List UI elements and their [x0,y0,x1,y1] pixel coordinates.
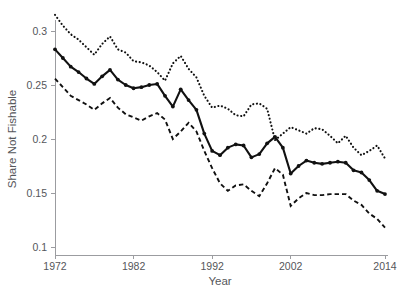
data-point-marker [242,144,246,148]
x-axis-title: Year [208,275,231,287]
data-point-marker [124,83,128,87]
data-point-marker [352,168,356,172]
data-point-marker [375,189,379,193]
y-axis-title: Share Not Fishable [6,90,18,188]
data-point-marker [171,105,175,109]
x-tick-label: 2014 [373,260,397,272]
data-point-marker [202,132,206,136]
data-point-marker [61,56,65,60]
data-point-marker [163,94,167,98]
point-estimate-markers [53,47,387,196]
point-estimate-line [55,49,385,194]
x-tick-label: 1992 [200,260,224,272]
data-point-marker [305,159,309,163]
lower-confidence-bound-line [55,79,385,228]
data-point-marker [257,152,261,156]
data-point-marker [195,108,199,112]
x-tick-label: 2002 [279,260,303,272]
x-axis-tick-group: 19721982199220022014 [43,255,397,272]
upper-confidence-bound-line [55,15,385,159]
data-point-marker [281,146,285,150]
x-tick-label: 1982 [122,260,146,272]
data-point-marker [360,171,364,175]
y-tick-label: 0.2 [32,133,47,145]
y-tick-label: 0.1 [32,241,47,253]
data-point-marker [69,65,73,69]
data-point-marker [77,70,81,74]
data-point-marker [336,160,340,164]
data-point-marker [273,135,277,139]
data-point-marker [210,149,214,153]
data-point-marker [179,87,183,91]
data-point-marker [312,161,316,165]
y-axis-tick-group: 0.10.150.20.250.3 [27,25,55,253]
data-point-marker [289,172,293,176]
data-point-marker [250,155,254,159]
data-point-marker [320,162,324,166]
data-point-marker [116,78,120,82]
data-point-marker [297,164,301,168]
data-point-marker [92,82,96,86]
data-point-marker [367,178,371,182]
data-point-marker [226,146,230,150]
data-point-marker [132,86,136,90]
y-tick-label: 0.15 [27,187,48,199]
share-not-fishable-line-chart: 0.10.150.20.250.3 19721982199220022014 Y… [0,0,405,294]
y-tick-label: 0.3 [32,25,47,37]
data-point-marker [53,47,57,51]
data-point-marker [383,192,387,196]
y-tick-label: 0.25 [27,79,48,91]
chart-figure: 0.10.150.20.250.3 19721982199220022014 Y… [0,0,405,294]
data-point-marker [155,82,159,86]
data-point-marker [85,77,89,81]
data-point-marker [147,83,151,87]
data-point-marker [234,143,238,147]
data-point-marker [344,161,348,165]
data-point-marker [218,153,222,157]
data-point-marker [328,161,332,165]
data-point-marker [100,74,104,78]
data-point-marker [265,141,269,145]
x-tick-label: 1972 [43,260,67,272]
data-point-marker [140,85,144,89]
data-point-marker [187,98,191,102]
data-point-marker [108,68,112,72]
